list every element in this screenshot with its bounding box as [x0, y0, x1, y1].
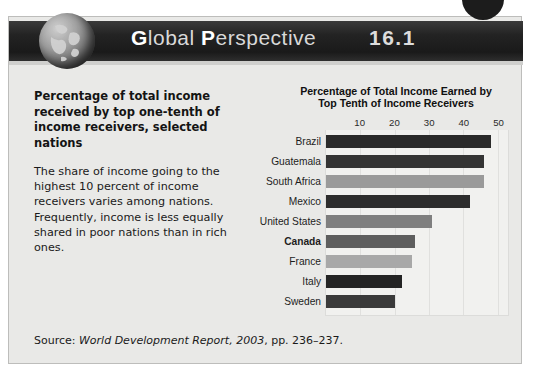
bar-label-canada: Canada [284, 236, 321, 247]
page-root: Global Perspective 16.1 Percentage of to… [0, 0, 536, 383]
x-tick-40: 40 [459, 117, 470, 128]
x-axis-tick-labels: 1020304050 [325, 117, 509, 130]
chart-row: South Africa [326, 172, 508, 192]
chart-row: Sweden [326, 292, 508, 312]
feature-number: 16.1 [369, 26, 416, 50]
lead-paragraph: Percentage of total income received by t… [34, 89, 244, 151]
bar-label-mexico: Mexico [289, 196, 321, 207]
source-suffix: , pp. 236–237. [264, 334, 343, 347]
chart-row: Brazil [326, 132, 508, 152]
bar-mexico [326, 195, 470, 208]
bar-label-united-states: United States [260, 216, 321, 227]
bar-label-south-africa: South Africa [266, 176, 321, 187]
bar-label-italy: Italy [302, 276, 321, 287]
chart-row: France [326, 252, 508, 272]
source-prefix: Source: [34, 334, 79, 347]
bar-sweden [326, 295, 395, 308]
left-text-column: Percentage of total income received by t… [34, 89, 244, 255]
bar-united-states [326, 215, 432, 228]
bar-label-guatemala: Guatemala [271, 156, 321, 167]
chart-title-line1: Percentage of Total Income Earned by [300, 85, 492, 97]
chart-container: Percentage of Total Income Earned by Top… [267, 85, 517, 316]
chart-title-line2: Top Tenth of Income Receivers [318, 97, 474, 109]
chart-row: Mexico [326, 192, 508, 212]
banner-title-lobal: lobal [148, 26, 195, 49]
feature-box-panel: Global Perspective 16.1 Percentage of to… [8, 16, 522, 364]
bar-france [326, 255, 412, 268]
banner-title-erspective: erspective [216, 26, 317, 49]
bar-label-france: France [289, 256, 321, 267]
bar-label-brazil: Brazil [296, 136, 321, 147]
source-note: Source: World Development Report, 2003, … [34, 334, 343, 347]
x-tick-30: 30 [424, 117, 435, 128]
bar-italy [326, 275, 402, 288]
plot-wrapper: 1020304050 BrazilGuatemalaSouth AfricaMe… [267, 117, 517, 316]
source-title: World Development Report, 2003 [79, 334, 264, 347]
bar-brazil [326, 135, 491, 148]
chart-title: Percentage of Total Income Earned by Top… [267, 85, 517, 110]
x-tick-50: 50 [493, 117, 504, 128]
bar-south-africa [326, 175, 484, 188]
chart-row: Canada [326, 232, 508, 252]
x-tick-20: 20 [389, 117, 400, 128]
chart-row: United States [326, 212, 508, 232]
bar-canada [326, 235, 415, 248]
globe-icon [39, 13, 95, 69]
chart-row: Italy [326, 272, 508, 292]
banner-title: Global Perspective [131, 26, 316, 50]
banner-title-p: P [201, 26, 216, 49]
x-tick-10: 10 [354, 117, 365, 128]
bar-label-sweden: Sweden [284, 296, 321, 307]
plot-area: BrazilGuatemalaSouth AfricaMexicoUnited … [325, 130, 509, 316]
body-paragraph: The share of income going to the highest… [34, 164, 244, 255]
bar-guatemala [326, 155, 484, 168]
banner-title-g: G [131, 26, 148, 49]
chart-row: Guatemala [326, 152, 508, 172]
